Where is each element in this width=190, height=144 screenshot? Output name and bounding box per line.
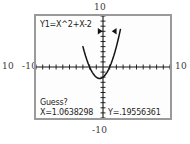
calculator-screen[interactable]: Y1=X^2+X-2 Guess? X=1.0638298 Y=.1955636… [34, 14, 172, 120]
outer-label-x-min-outer: 10 [2, 61, 14, 71]
graphing-calculator-screenshot: 10 10 -10 10 -10 Y1=X^2+X-2 Guess? X=1.0… [0, 0, 190, 144]
outer-label-y-max: 10 [94, 2, 106, 12]
cursor-y-readout: Y=.19556361 [108, 108, 161, 117]
outer-label-y-min: -10 [92, 125, 107, 135]
equation-label: Y1=X^2+X-2 [40, 20, 92, 29]
guess-prompt: Guess? [40, 98, 68, 107]
outer-label-x-max: 10 [175, 61, 187, 71]
cursor-x-readout: X=1.0638298 [40, 108, 93, 117]
left-bound-triangle-icon [98, 28, 103, 34]
right-bound-triangle-icon [112, 28, 117, 34]
